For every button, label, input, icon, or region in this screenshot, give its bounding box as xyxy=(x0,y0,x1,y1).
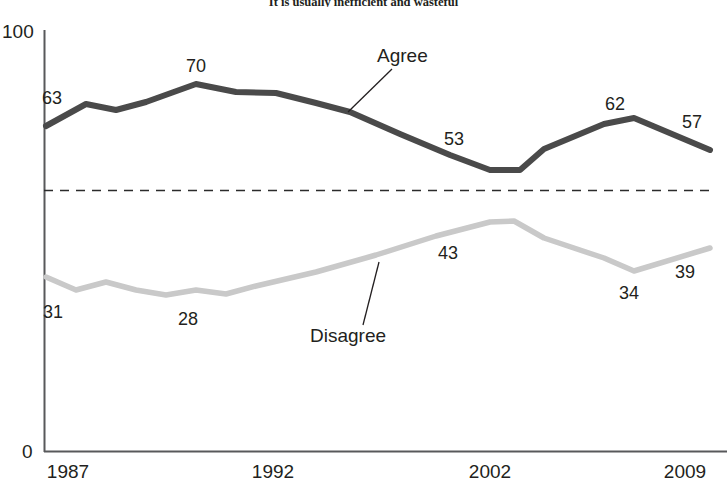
y-axis-label-top: 100 xyxy=(2,22,34,41)
data-label-disagree-34: 34 xyxy=(609,284,649,302)
x-tick-2009: 2009 xyxy=(645,462,725,481)
data-label-agree-70: 70 xyxy=(176,57,216,75)
x-tick-1992: 1992 xyxy=(233,462,313,481)
series-annotation-agree: Agree xyxy=(377,46,428,65)
series-annotation-disagree: Disagree xyxy=(310,326,386,345)
x-tick-1987: 1987 xyxy=(28,462,108,481)
data-label-agree-62: 62 xyxy=(595,95,635,113)
data-label-agree-57: 57 xyxy=(672,113,712,131)
data-label-agree-63: 63 xyxy=(32,89,72,107)
y-axis-label-bottom: 0 xyxy=(22,442,33,461)
chart-plot-area xyxy=(0,0,727,488)
data-label-disagree-28: 28 xyxy=(168,310,208,328)
data-label-disagree-31: 31 xyxy=(33,303,73,321)
data-label-agree-53: 53 xyxy=(434,130,474,148)
leader-line-disagree xyxy=(363,262,379,325)
data-label-disagree-43: 43 xyxy=(428,244,468,262)
data-label-disagree-39: 39 xyxy=(665,263,705,281)
x-tick-2002: 2002 xyxy=(450,462,530,481)
chart-container: It is usually inefficient and wasteful 1… xyxy=(0,0,727,488)
leader-line-agree xyxy=(348,69,392,112)
